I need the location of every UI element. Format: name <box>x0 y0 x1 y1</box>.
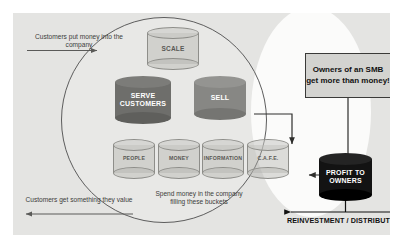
cylinder-bottom <box>147 58 199 70</box>
cylinder-top <box>147 27 199 39</box>
owners-callout-text: Owners of an SMB get more than money! <box>306 65 390 86</box>
cylinder-serve-customers: SERVE CUSTOMERS <box>115 76 171 124</box>
cylinder-label: SELL <box>194 94 246 102</box>
bucket-money: MONEY <box>158 139 200 179</box>
cylinder-sell: SELL <box>194 76 246 120</box>
cylinder-bottom <box>202 167 244 179</box>
cylinder-bottom <box>115 112 171 124</box>
cylinder-label: SERVE CUSTOMERS <box>115 92 171 108</box>
bucket-label: PEOPLE <box>113 156 155 162</box>
bucket-label: MONEY <box>158 156 200 162</box>
bucket-cafe: C.A.F.E. <box>247 139 289 179</box>
cylinder-top <box>158 139 200 151</box>
cylinder-bottom <box>158 167 200 179</box>
diagram-stage: SCALE SERVE CUSTOMERS SELL PEOPLE <box>0 0 403 248</box>
inflow-label: Customers put money into the company <box>27 33 131 49</box>
cylinder-label: SCALE <box>147 45 199 52</box>
spend-label: Spend money in the company filling these… <box>147 190 251 206</box>
cylinder-scale: SCALE <box>147 27 199 70</box>
cylinder-top <box>247 139 289 151</box>
cylinder-bottom <box>247 167 289 179</box>
cylinder-top <box>113 139 155 151</box>
bucket-people: PEOPLE <box>113 139 155 179</box>
owners-callout-box: Owners of an SMB get more than money! <box>305 53 390 98</box>
cylinder-label: PROFIT TO OWNERS <box>319 169 372 185</box>
outflow-label: Customers get something they value <box>25 196 133 204</box>
bucket-label: C.A.F.E. <box>247 156 289 162</box>
cylinder-profit-to-owners: PROFIT TO OWNERS <box>319 153 372 201</box>
cylinder-bottom <box>194 108 246 120</box>
cylinder-top <box>319 153 372 165</box>
cylinder-bottom <box>113 167 155 179</box>
cylinder-top <box>194 76 246 88</box>
cylinder-bottom <box>319 189 372 201</box>
reinvestment-label: REINVESTMENT / DISTRIBUTION <box>281 216 390 225</box>
diagram-canvas: SCALE SERVE CUSTOMERS SELL PEOPLE <box>13 13 390 235</box>
cylinder-top <box>202 139 244 151</box>
cylinder-top <box>115 76 171 88</box>
bucket-information: INFORMATION <box>202 139 244 179</box>
bucket-label: INFORMATION <box>202 156 244 162</box>
